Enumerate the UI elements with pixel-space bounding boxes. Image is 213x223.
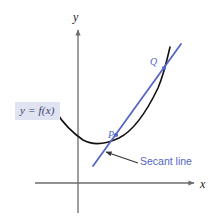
secant-leader-line [106, 152, 138, 163]
point-label-p: P [108, 130, 114, 140]
secant-line-figure: y x y = f(x) P Q Secant line [0, 0, 213, 223]
function-equation-label: y = f(x) [15, 102, 60, 120]
y-axis-label: y [73, 11, 78, 23]
secant-line-annotation: Secant line [140, 156, 192, 167]
point-label-q: Q [150, 57, 157, 67]
secant-line [93, 44, 181, 166]
point-marker-p [114, 133, 118, 137]
x-axis-label: x [200, 178, 205, 190]
point-marker-q [162, 66, 166, 70]
